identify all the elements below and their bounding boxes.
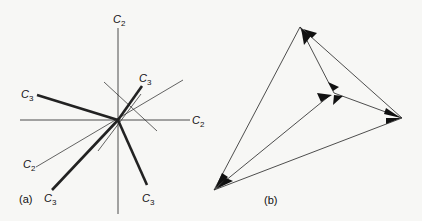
label-c2-lower-left: C2	[23, 159, 35, 173]
edge-bottomleft-center	[214, 97, 328, 190]
c3-axis-upper-right	[118, 86, 142, 120]
c3-axis-lower-left	[52, 120, 118, 190]
panel-b-tetrahedron	[214, 27, 402, 190]
edge-bottomleft-right	[214, 118, 402, 190]
arrowhead-center-3	[333, 95, 343, 105]
label-c2-right: C2	[192, 115, 204, 129]
label-c3-lower-right: C3	[142, 193, 154, 207]
edge-top-right	[300, 27, 402, 118]
caption-panel-a: (a)	[19, 194, 32, 205]
c3-axis-left	[37, 95, 118, 120]
edge-top-bottomleft	[214, 27, 300, 190]
c2-oblique-axis	[36, 80, 183, 167]
arrowhead-center-2	[317, 93, 332, 102]
panel-b-arrowheads	[215, 28, 401, 189]
diagram-canvas	[0, 0, 422, 221]
caption-panel-b: (b)	[264, 195, 277, 206]
label-c3-upper-right: C3	[139, 73, 151, 87]
label-c2-top: C2	[113, 14, 125, 28]
label-c3-lower-left: C3	[44, 193, 56, 207]
label-c3-left: C3	[21, 89, 33, 103]
c3-axis-lower-right	[118, 120, 147, 185]
panel-a-axes	[20, 28, 190, 214]
arrowhead-center-1	[328, 82, 339, 91]
thin-short-axis	[104, 82, 157, 131]
